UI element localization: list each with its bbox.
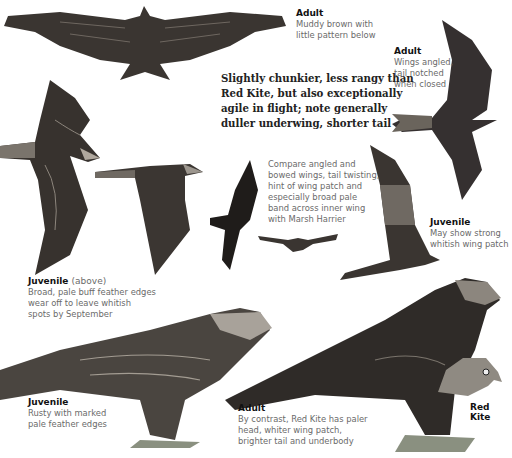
juvenile-flying-illustration-2 [95, 160, 205, 275]
caption-juvenile-above: Juvenile (above) Broad, pale buff feathe… [28, 276, 156, 320]
caption-adult-soaring: Adult Muddy brown with little pattern be… [296, 8, 376, 41]
caption-juvenile-flying-right: Juvenile May show strong whitish wing pa… [430, 217, 509, 250]
caption-adult-flying-right: Adult Wings angled, tail notched when cl… [394, 46, 453, 90]
juvenile-flying-illustration-1 [0, 80, 105, 275]
gliding-distant-illustration [258, 232, 338, 254]
adult-soaring-illustration [0, 2, 290, 80]
field-guide-plate: Adult Muddy brown with little pattern be… [0, 0, 512, 458]
species-summary: Slightly chunkier, less rangy than Red K… [221, 71, 414, 131]
caption-juvenile-perched: Juvenile Rusty with marked pale feather … [28, 397, 107, 430]
caption-adult-perched: Adult By contrast, Red Kite has paler he… [238, 403, 368, 447]
caption-compare-marsh-harrier: Compare angled and bowed wings, tail twi… [268, 159, 379, 225]
silhouette-flying-illustration [210, 160, 260, 270]
red-kite-label: Red Kite [470, 402, 512, 422]
red-kite-head-illustration [438, 352, 504, 400]
